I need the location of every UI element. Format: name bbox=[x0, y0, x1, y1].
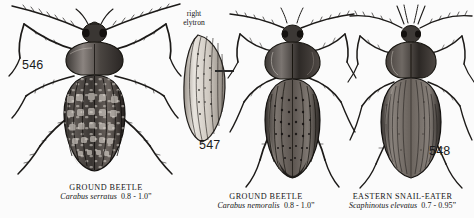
beetle-548-drawing bbox=[348, 2, 474, 190]
beetle-547-drawing bbox=[228, 2, 356, 190]
scientific-name-548: Scaphinotus elevatus 0.7 - 0.95” bbox=[332, 202, 473, 211]
caption-548: EASTERN SNAIL-EATER Scaphinotus elevatus… bbox=[332, 192, 473, 211]
beetle-figure-547 bbox=[228, 2, 356, 190]
beetle-546-drawing bbox=[8, 0, 183, 180]
scientific-name-547: Carabus nemoralis 0.8 - 1.0” bbox=[196, 202, 336, 211]
sci-italic-548: Scaphinotus elevatus bbox=[349, 201, 417, 210]
size-548: 0.7 - 0.95” bbox=[417, 201, 456, 210]
size-546: 0.8 - 1.0” bbox=[117, 192, 152, 201]
caption-547: GROUND BEETLE Carabus nemoralis 0.8 - 1.… bbox=[196, 192, 336, 211]
size-547: 0.8 - 1.0” bbox=[280, 201, 315, 210]
sci-italic-547: Carabus nemoralis bbox=[217, 201, 279, 210]
elytron-annotation-label: right elytron bbox=[168, 9, 220, 28]
elytron-label-line1: right bbox=[168, 9, 220, 18]
common-name-548: EASTERN SNAIL-EATER bbox=[332, 192, 473, 201]
figure-number-546: 546 bbox=[22, 59, 43, 72]
common-name-546: GROUND BEETLE bbox=[0, 183, 212, 192]
beetle-figure-546 bbox=[8, 0, 183, 180]
scientific-name-546: Carabus serratus 0.8 - 1.0” bbox=[0, 193, 212, 202]
elytron-label-line2: elytron bbox=[168, 18, 220, 27]
common-name-547: GROUND BEETLE bbox=[196, 192, 336, 201]
sci-italic-546: Carabus serratus bbox=[60, 192, 117, 201]
caption-546: GROUND BEETLE Carabus serratus 0.8 - 1.0… bbox=[0, 183, 212, 202]
figure-number-547: 547 bbox=[199, 139, 220, 152]
figure-number-548: 548 bbox=[429, 145, 450, 158]
beetle-figure-548 bbox=[348, 2, 474, 190]
